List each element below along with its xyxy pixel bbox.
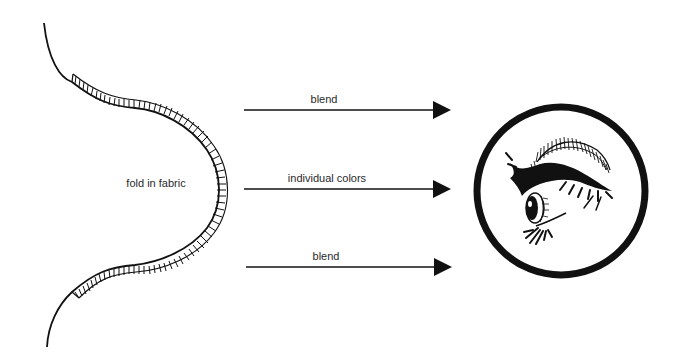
arrowhead-icon [433, 101, 451, 119]
fold-label: fold in fabric [126, 177, 186, 189]
arrowhead-icon [434, 258, 452, 276]
arrow-label-blend-top: blend [311, 93, 338, 105]
arrow-blend-bottom: blend [246, 250, 452, 276]
fabric-fold-color-blending-diagram: fold in fabric blend individual colors b… [0, 0, 682, 362]
arrow-individual-colors: individual colors [244, 172, 451, 198]
eye-in-circle-icon [477, 107, 645, 275]
arrow-blend-top: blend [244, 93, 451, 119]
arrowhead-icon [433, 180, 451, 198]
arrow-label-blend-bottom: blend [313, 250, 340, 262]
arrow-label-individual-colors: individual colors [288, 172, 367, 184]
